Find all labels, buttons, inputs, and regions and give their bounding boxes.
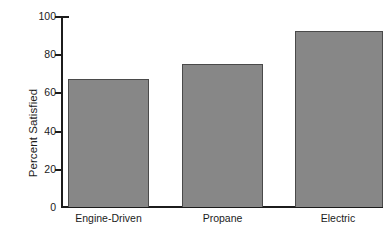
y-tick-label-40: 40 [26, 126, 56, 136]
y-tick-label-80: 80 [26, 49, 56, 59]
y-tick-label-60: 60 [26, 87, 56, 97]
bar-engine-driven [68, 79, 149, 207]
y-axis-tick-labels: 100 80 60 40 20 0 [26, 0, 56, 238]
y-tick-label-0: 0 [26, 202, 56, 212]
y-tick-mark-80 [55, 54, 62, 56]
y-tick-label-100: 100 [26, 11, 56, 21]
x-category-label-engine-driven: Engine-Driven [63, 212, 154, 225]
y-tick-mark-60 [55, 92, 62, 94]
bar-propane [182, 64, 263, 207]
y-tick-mark-40 [55, 131, 62, 133]
y-tick-mark-20 [55, 169, 62, 171]
plot-area [63, 16, 383, 207]
y-tick-mark-100 [55, 16, 62, 18]
y-tick-label-20: 20 [26, 164, 56, 174]
bar-chart: Percent Satisfied 100 80 60 40 20 0 Engi… [0, 0, 392, 238]
bar-electric [295, 31, 383, 207]
x-category-label-electric: Electric [293, 212, 383, 225]
x-category-label-propane: Propane [177, 212, 268, 225]
